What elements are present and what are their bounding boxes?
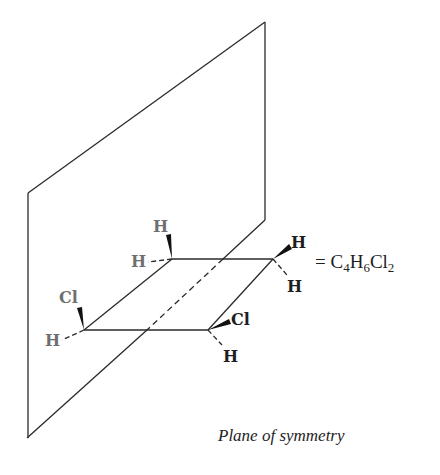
plane-top-edge xyxy=(28,22,265,193)
ring-bond-c4-c1 xyxy=(84,259,172,330)
c4-substituents: Cl H xyxy=(45,288,84,350)
symmetry-diagram: H H H H = C4H6Cl2 Cl H Cl H Plane of sym… xyxy=(0,0,440,475)
wedge-bond-icon xyxy=(166,234,172,259)
wedge-bond-icon xyxy=(273,244,292,259)
atom-label: Cl xyxy=(59,288,78,307)
atom-label: H xyxy=(131,252,146,271)
wedge-bond-icon xyxy=(208,319,231,330)
dash-bond xyxy=(208,330,222,345)
c1-substituents: H H xyxy=(131,217,172,271)
wedge-bond-icon xyxy=(77,307,84,330)
atom-label: H xyxy=(153,217,168,236)
symmetry-plane xyxy=(27,22,265,438)
atom-label: H xyxy=(223,347,238,366)
molecular-formula: = C4H6Cl2 xyxy=(315,251,394,275)
atom-label: H xyxy=(287,277,302,296)
atom-label: H xyxy=(291,233,306,252)
atom-label: H xyxy=(45,331,60,350)
dash-bond xyxy=(273,259,287,275)
plane-bottom-edge-upper xyxy=(223,220,265,259)
dash-bond xyxy=(62,330,84,340)
c2-substituents: H H xyxy=(273,233,306,296)
c3-substituents: Cl H xyxy=(208,310,250,366)
atom-label: Cl xyxy=(231,310,250,329)
figure-caption: Plane of symmetry xyxy=(217,426,345,445)
